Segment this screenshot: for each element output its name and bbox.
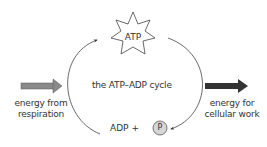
adp-label: ADP + — [110, 123, 139, 133]
energy-output-label: energy for cellular work — [201, 98, 263, 120]
atp-label: ATP — [113, 32, 153, 42]
energy-output-line1: energy for — [201, 98, 263, 109]
energy-output-arrow — [205, 79, 248, 93]
energy-input-line2: respiration — [12, 109, 70, 120]
cycle-title: the ATP–ADP cycle — [92, 80, 172, 91]
cycle-arc-right — [168, 38, 203, 129]
phosphate-label: P — [155, 123, 165, 132]
energy-input-arrow — [21, 79, 62, 93]
energy-output-line2: cellular work — [201, 109, 263, 120]
atp-adp-cycle-diagram: ATP ADP + P the ATP–ADP cycle energy fro… — [0, 0, 267, 147]
energy-input-line1: energy from — [12, 98, 70, 109]
energy-input-label: energy from respiration — [12, 98, 70, 120]
